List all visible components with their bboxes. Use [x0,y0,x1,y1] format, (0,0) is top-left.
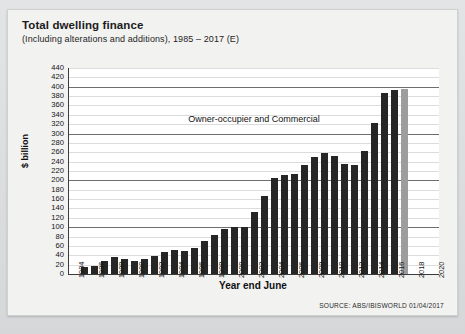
y-axis-tick-label: 260 [51,148,64,156]
x-axis-tick-label: 1988 [117,262,126,278]
y-axis-title: $ billion [20,134,30,168]
x-axis-tick-label: 2004 [277,262,286,278]
y-axis-tick-label: 120 [51,214,64,222]
x-axis-tick-label: 2014 [377,262,386,278]
bar-2007 [301,165,308,274]
x-axis-tick-label: 2008 [317,262,326,278]
x-axis-tick-label: 2006 [297,262,306,278]
bar-2011 [341,164,348,274]
y-axis-tick-label: 320 [51,120,64,128]
x-axis-tick-label: 2002 [257,262,266,278]
bar-2012 [351,165,358,274]
x-axis-title: Year end June [68,280,438,291]
y-axis-tick-label: 200 [51,177,64,185]
bar-2013 [361,151,368,274]
y-axis-tick-label: 220 [51,167,64,175]
bar-2008 [311,157,318,274]
y-axis-tick-label: 360 [51,102,64,110]
x-axis-tick-label: 1986 [97,262,106,278]
y-axis-tick-label: 240 [51,158,64,166]
y-axis-tick-label: 140 [51,205,64,213]
x-axis-tick-label: 2010 [337,262,346,278]
x-axis-tick-label: 2020 [437,262,446,278]
y-axis-tick-label: 420 [51,74,64,82]
y-axis-tick-label: 280 [51,139,64,147]
bar-2014 [371,123,378,274]
x-axis-tick-label: 1984 [77,262,86,278]
y-axis-tick-label: 440 [51,64,64,72]
x-axis-tick-label: 2018 [417,262,426,278]
screenshot-root: Total dwelling finance (Including altera… [0,0,465,334]
y-axis-tick-label: 100 [51,223,64,231]
source-note: SOURCE: ABS/IBISWORLD 01/04/2017 [319,302,444,309]
x-axis-tick-label: 2012 [357,262,366,278]
bar-2005 [281,175,288,274]
bar-2010 [331,156,338,274]
y-axis-tick-label: 80 [56,233,64,241]
chart-annotation: Owner-occupier and Commercial [69,114,439,124]
plot-area: 0204060801001201401601802002202402602803… [68,68,439,275]
plot-wrapper: $ billion 020406080100120140160180200220… [22,56,446,301]
x-axis-tick-label: 1994 [177,262,186,278]
chart-subtitle: (Including alterations and additions), 1… [22,34,239,44]
y-axis-tick-label: 20 [56,261,64,269]
bar-series [69,68,439,274]
y-axis-tick-label: 400 [51,83,64,91]
y-axis-tick-label: 160 [51,195,64,203]
y-axis-tick-label: 0 [60,270,64,278]
y-axis-tick-label: 60 [56,242,64,250]
y-axis-tick-label: 340 [51,111,64,119]
bar-2006 [291,174,298,274]
y-axis-tick-label: 380 [51,92,64,100]
y-axis-tick-label: 300 [51,130,64,138]
chart-card: Total dwelling finance (Including altera… [7,9,458,316]
x-axis-tick-label: 1990 [137,262,146,278]
y-axis-tick-label: 40 [56,251,64,259]
page-title: Total dwelling finance [22,19,143,31]
x-axis-tick-label: 1996 [197,262,206,278]
x-axis-tick-label: 1998 [217,262,226,278]
x-axis-tick-label: 1992 [157,262,166,278]
y-axis-tick-label: 180 [51,186,64,194]
bar-2009 [321,153,328,274]
bar-2004 [271,178,278,274]
x-axis-tick-label: 2000 [237,262,246,278]
x-axis-tick-label: 2016 [397,262,406,278]
